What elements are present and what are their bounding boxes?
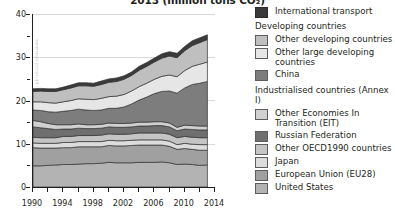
legend-label-european-union: European Union (EU28) (275, 169, 376, 180)
legend-swatch-other-developing-countries (255, 35, 268, 46)
legend-label-other-developing-countries: Other developing countries (275, 34, 392, 45)
plot-area (33, 14, 215, 187)
y-tick-label: 30 (6, 53, 26, 62)
legend-item-other-eit[interactable]: Other Economies InTransition (EIT) (255, 108, 395, 129)
legend-item-other-large-developing-countries[interactable]: Other large developingcountries (255, 47, 395, 68)
x-tick (108, 188, 109, 192)
y-tick (26, 57, 30, 58)
legend-label-other-large-developing-countries: Other large developingcountries (275, 47, 374, 68)
x-tick (199, 188, 200, 192)
x-tick (214, 188, 215, 192)
y-tick-label: 0 (6, 183, 26, 192)
legend-item-japan[interactable]: Japan (255, 156, 395, 168)
legend-label-other-oecd1990: Other OECD1990 countries (275, 143, 391, 154)
legend-label-other-eit: Other Economies InTransition (EIT) (275, 108, 360, 129)
legend-swatch-other-oecd1990 (255, 144, 268, 155)
x-tick-label: 2006 (136, 199, 170, 208)
y-axis-labels: 010203040 (4, 14, 26, 187)
legend-item-other-oecd1990[interactable]: Other OECD1990 countries (255, 143, 395, 155)
legend-label-united-states: United States (275, 182, 333, 193)
x-tick (78, 188, 79, 192)
legend-label-japan: Japan (275, 156, 299, 167)
legend-item-other-developing-countries[interactable]: Other developing countries (255, 34, 395, 46)
y-tick-minor (27, 79, 30, 80)
x-tick-label: 2010 (167, 199, 201, 208)
y-tick (26, 101, 30, 102)
x-tick-label: 2002 (106, 199, 140, 208)
y-tick-minor (27, 122, 30, 123)
legend-swatch-china (255, 70, 268, 81)
y-tick-minor (27, 165, 30, 166)
legend-header-industrialised-countries: Industrialised countries (Annex I) (255, 85, 395, 106)
chart-panel: 010203040 1990199419982002200620102014 p… (0, 6, 222, 222)
x-tick-label: 2014 (197, 199, 231, 208)
x-tick (93, 188, 94, 192)
y-tick-minor (27, 36, 30, 37)
x-tick (184, 188, 185, 192)
legend-label-line1: Other large developing (275, 47, 374, 57)
legend-label-international-transport: International transport (275, 6, 372, 17)
legend-label-line2: countries (275, 57, 315, 67)
legend-label-russian-federation: Russian Federation (275, 130, 357, 141)
legend-swatch-united-states (255, 183, 268, 194)
x-tick (153, 188, 154, 192)
x-tick-label: 1994 (45, 199, 79, 208)
x-tick (123, 188, 124, 192)
y-tick (26, 144, 30, 145)
legend-item-russian-federation[interactable]: Russian Federation (255, 130, 395, 142)
x-tick (138, 188, 139, 192)
legend-item-international-transport[interactable]: International transport (255, 6, 395, 18)
legend-swatch-european-union (255, 170, 268, 181)
legend-swatch-other-eit (255, 109, 268, 120)
y-tick (26, 187, 30, 188)
legend-item-china[interactable]: China (255, 69, 395, 81)
x-tick (32, 188, 33, 192)
y-tick-label: 10 (6, 140, 26, 149)
stacked-area-series (33, 14, 215, 187)
legend-swatch-japan (255, 157, 268, 168)
legend-item-united-states[interactable]: United States (255, 182, 395, 194)
x-axis-labels: 1990199419982002200620102014 (32, 191, 215, 205)
x-tick (47, 188, 48, 192)
y-tick (26, 14, 30, 15)
watermark-text: pbl.nl/co2-emissions (34, 39, 39, 84)
legend-header-developing-countries: Developing countries (255, 21, 395, 32)
legend-label-line2: Transition (EIT) (275, 118, 339, 128)
y-tick-label: 40 (6, 10, 26, 19)
y-axis (32, 14, 33, 187)
x-tick-label: 1998 (76, 199, 110, 208)
x-tick (62, 188, 63, 192)
legend-item-european-union[interactable]: European Union (EU28) (255, 169, 395, 181)
legend-label-line1: Other Economies In (275, 108, 360, 118)
area-band (33, 162, 207, 187)
legend-swatch-other-large-developing-countries (255, 48, 268, 59)
x-tick (169, 188, 170, 192)
y-tick-label: 20 (6, 97, 26, 106)
x-tick-label: 1990 (15, 199, 49, 208)
chart-legend: International transport Developing count… (255, 6, 395, 222)
legend-swatch-russian-federation (255, 131, 268, 142)
legend-swatch-international-transport (255, 7, 268, 18)
legend-label-china: China (275, 69, 300, 80)
